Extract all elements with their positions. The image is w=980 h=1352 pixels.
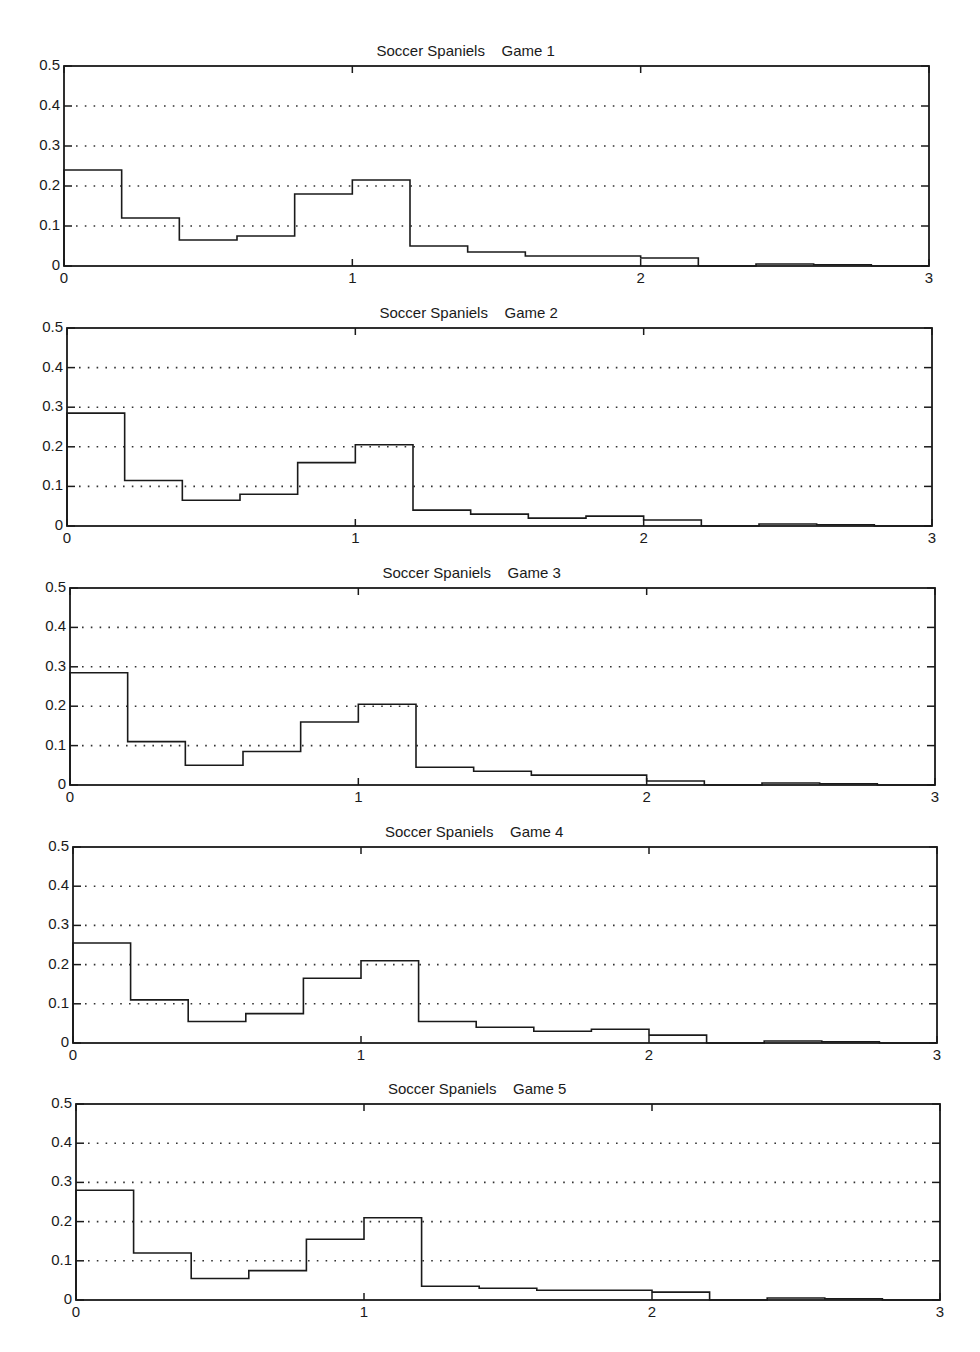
x-tick-label: 1 xyxy=(342,269,362,286)
y-tick-label: 0.2 xyxy=(29,955,69,972)
y-tick-label: 0.4 xyxy=(29,876,69,893)
x-tick-label: 0 xyxy=(54,269,74,286)
x-tick-label: 3 xyxy=(930,1303,950,1320)
y-tick-label: 0.1 xyxy=(23,476,63,493)
x-tick-label: 2 xyxy=(642,1303,662,1320)
y-tick-label: 0.5 xyxy=(23,318,63,335)
y-tick-label: 0.1 xyxy=(29,994,69,1011)
y-tick-label: 0.2 xyxy=(23,437,63,454)
plot-area xyxy=(73,847,937,1043)
x-tick-label: 2 xyxy=(637,788,657,805)
plot-area xyxy=(76,1104,940,1300)
histogram-stairs xyxy=(64,170,929,266)
x-tick-label: 1 xyxy=(348,788,368,805)
y-tick-label: 0.4 xyxy=(20,96,60,113)
histogram-stairs xyxy=(70,673,935,785)
x-tick-label: 1 xyxy=(354,1303,374,1320)
x-tick-label: 3 xyxy=(927,1046,947,1063)
x-tick-label: 0 xyxy=(66,1303,86,1320)
y-tick-label: 0.3 xyxy=(32,1172,72,1189)
y-tick-label: 0.2 xyxy=(32,1212,72,1229)
x-tick-label: 2 xyxy=(634,529,654,546)
x-tick-label: 3 xyxy=(922,529,942,546)
chart-title: Soccer Spaniels Game 4 xyxy=(385,823,563,840)
histogram-stairs xyxy=(76,1190,940,1300)
y-tick-label: 0.5 xyxy=(26,578,66,595)
y-tick-label: 0.4 xyxy=(32,1133,72,1150)
x-tick-label: 3 xyxy=(919,269,939,286)
chart-title: Soccer Spaniels Game 2 xyxy=(380,304,558,321)
chart-title: Soccer Spaniels Game 1 xyxy=(377,42,555,59)
histogram-stairs xyxy=(67,413,932,526)
y-tick-label: 0.2 xyxy=(26,696,66,713)
y-tick-label: 0.3 xyxy=(26,657,66,674)
plot-area xyxy=(70,588,935,785)
y-tick-label: 0.1 xyxy=(32,1251,72,1268)
y-tick-label: 0.4 xyxy=(26,617,66,634)
axes-frame xyxy=(64,66,929,266)
x-tick-label: 2 xyxy=(631,269,651,286)
axes-frame xyxy=(67,328,932,526)
x-tick-label: 0 xyxy=(63,1046,83,1063)
y-tick-label: 0.3 xyxy=(20,136,60,153)
y-tick-label: 0.1 xyxy=(20,216,60,233)
y-tick-label: 0.4 xyxy=(23,358,63,375)
plot-area xyxy=(64,66,929,266)
y-tick-label: 0.3 xyxy=(23,397,63,414)
x-tick-label: 2 xyxy=(639,1046,659,1063)
histogram-stairs xyxy=(73,943,937,1043)
y-tick-label: 0.5 xyxy=(29,837,69,854)
axes-frame xyxy=(76,1104,940,1300)
y-tick-label: 0.5 xyxy=(32,1094,72,1111)
axes-frame xyxy=(73,847,937,1043)
x-tick-label: 0 xyxy=(60,788,80,805)
x-tick-label: 1 xyxy=(351,1046,371,1063)
chart-title: Soccer Spaniels Game 5 xyxy=(388,1080,566,1097)
x-tick-label: 0 xyxy=(57,529,77,546)
chart-title: Soccer Spaniels Game 3 xyxy=(383,564,561,581)
y-tick-label: 0.2 xyxy=(20,176,60,193)
x-tick-label: 3 xyxy=(925,788,945,805)
axes-frame xyxy=(70,588,935,785)
y-tick-label: 0.5 xyxy=(20,56,60,73)
y-tick-label: 0.3 xyxy=(29,915,69,932)
x-tick-label: 1 xyxy=(345,529,365,546)
plot-area xyxy=(67,328,932,526)
y-tick-label: 0.1 xyxy=(26,736,66,753)
